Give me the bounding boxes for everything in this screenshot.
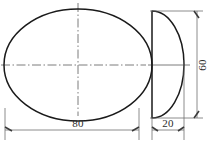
width-dimension-text: 80 <box>72 117 84 129</box>
depth-dimension-group: 20 <box>152 60 184 140</box>
height-dimension-group: 60 <box>150 11 208 118</box>
height-dim-tick-top <box>194 11 199 18</box>
side-view-half-ellipse-outline <box>152 11 184 118</box>
width-dimension-group: 80 <box>5 108 139 140</box>
height-dim-tick-bottom <box>194 111 199 118</box>
depth-dimension-text: 20 <box>162 117 174 129</box>
front-view-group <box>1 3 152 121</box>
height-dimension-text: 60 <box>196 59 208 71</box>
technical-drawing-canvas: 80 20 60 <box>0 0 214 147</box>
drawing-svg: 80 20 60 <box>0 0 214 147</box>
